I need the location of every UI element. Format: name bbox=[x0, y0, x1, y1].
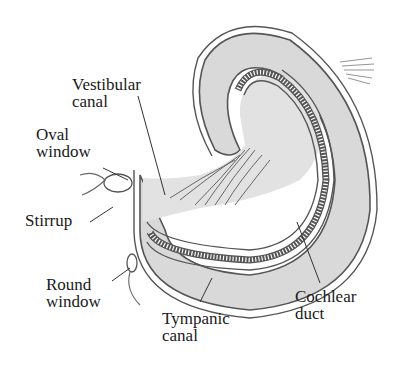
label-line: Vestibular bbox=[72, 76, 141, 93]
label-round-window: Round window bbox=[46, 276, 101, 310]
auditory-nerve bbox=[340, 58, 374, 84]
label-line: Round bbox=[46, 276, 101, 293]
label-vestibular-canal: Vestibular canal bbox=[72, 76, 141, 110]
label-line: duct bbox=[295, 305, 356, 322]
cochlea-diagram: Vestibular canal Oval window Stirrup Rou… bbox=[0, 0, 398, 378]
label-cochlear-duct: Cochlear duct bbox=[295, 288, 356, 322]
label-line: Oval bbox=[36, 126, 91, 143]
label-line: window bbox=[36, 143, 91, 160]
stirrup-shape bbox=[104, 174, 132, 192]
label-stirrup: Stirrup bbox=[25, 212, 72, 229]
label-line: canal bbox=[72, 93, 141, 110]
label-oval-window: Oval window bbox=[36, 126, 91, 160]
label-line: canal bbox=[162, 327, 230, 344]
label-line: Tympanic bbox=[162, 310, 230, 327]
label-line: window bbox=[46, 293, 101, 310]
label-line: Cochlear bbox=[295, 288, 356, 305]
label-tympanic-canal: Tympanic canal bbox=[162, 310, 230, 344]
